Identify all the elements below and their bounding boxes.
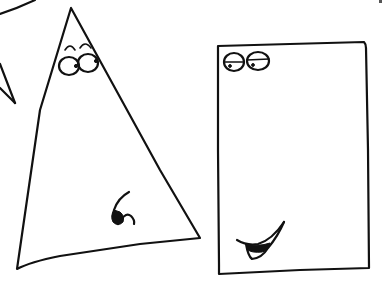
triangle-character	[17, 8, 200, 269]
mouth-icon	[237, 222, 284, 259]
rectangle-character	[218, 42, 369, 274]
sketch-canvas	[0, 0, 382, 302]
left-eyebrow-icon	[65, 46, 75, 50]
left-pupil	[74, 64, 77, 67]
partial-star-shape	[0, 0, 35, 103]
right-pupil	[94, 59, 97, 62]
nose-icon	[112, 192, 134, 225]
right-eye-icon	[247, 52, 269, 70]
right-eyebrow-icon	[80, 44, 91, 48]
right-eye-icon	[78, 54, 98, 72]
rectangle-body	[218, 42, 369, 274]
triangle-body	[17, 8, 200, 269]
left-eye-icon	[224, 53, 244, 71]
